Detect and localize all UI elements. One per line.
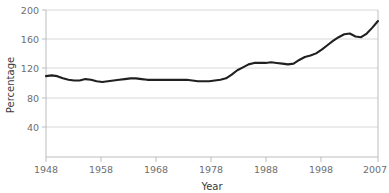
x-tick-label-2007: 2007 xyxy=(363,164,387,175)
x-tick-label-1958: 1958 xyxy=(89,164,113,175)
y-tick-label-120: 120 xyxy=(21,63,39,74)
x-tick-label-1968: 1968 xyxy=(144,164,168,175)
line-chart: 200 160 120 80 40 1948 1958 1968 1978 19… xyxy=(0,0,389,193)
x-tick-labels: 1948 1958 1968 1978 1988 1998 2007 xyxy=(34,164,387,175)
axes-lines xyxy=(46,10,378,157)
y-tick-label-160: 160 xyxy=(21,34,39,45)
y-tick-label-80: 80 xyxy=(27,93,39,104)
data-line-percentage xyxy=(46,21,378,82)
gridlines xyxy=(46,10,378,127)
y-tick-marks xyxy=(42,10,46,127)
y-tick-label-40: 40 xyxy=(27,122,39,133)
x-tick-label-1998: 1998 xyxy=(309,164,333,175)
x-tick-label-1988: 1988 xyxy=(254,164,278,175)
x-tick-label-1978: 1978 xyxy=(199,164,223,175)
y-tick-label-200: 200 xyxy=(21,5,39,16)
chart-container: 200 160 120 80 40 1948 1958 1968 1978 19… xyxy=(0,0,389,193)
y-tick-labels: 200 160 120 80 40 xyxy=(21,5,39,133)
x-axis-title: Year xyxy=(200,181,223,192)
y-axis-title: Percentage xyxy=(5,57,16,113)
x-tick-label-1948: 1948 xyxy=(34,164,58,175)
x-tick-marks xyxy=(46,157,378,162)
